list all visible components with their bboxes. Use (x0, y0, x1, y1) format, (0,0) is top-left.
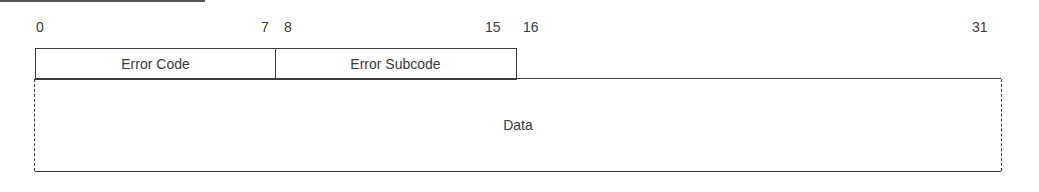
field-error-code-label: Error Code (121, 56, 189, 72)
bit-label-0: 0 (36, 19, 44, 35)
field-error-subcode: Error Subcode (275, 48, 517, 80)
field-data-label: Data (35, 117, 1001, 133)
data-right-dashed-edge (1001, 79, 1002, 171)
bit-label-15: 15 (485, 19, 501, 35)
field-error-subcode-label: Error Subcode (350, 56, 440, 72)
bit-label-8: 8 (284, 19, 292, 35)
bit-label-31: 31 (972, 19, 988, 35)
field-error-code: Error Code (35, 48, 276, 80)
field-data: Data (35, 78, 1001, 172)
bit-label-16: 16 (523, 19, 539, 35)
bit-label-7: 7 (261, 19, 269, 35)
header-rule (0, 0, 205, 2)
